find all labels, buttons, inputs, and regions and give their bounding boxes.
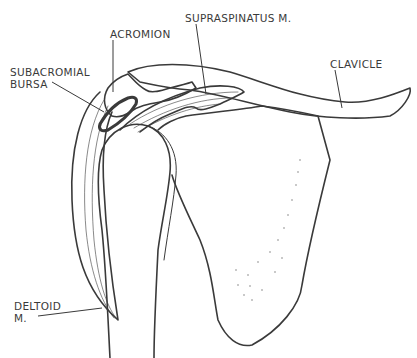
humerus-head-outline	[148, 126, 176, 260]
label-clavicle: CLAVICLE	[330, 58, 382, 70]
label-subacromial: SUBACROMIAL	[10, 66, 90, 78]
humerus	[98, 124, 170, 358]
deltoid-muscle	[72, 92, 118, 320]
label-supraspinatus: SUPRASPINATUS M.	[185, 12, 291, 24]
label-deltoid: DELTOID	[14, 300, 61, 312]
label-deltoid-m: M.	[14, 312, 27, 324]
clavicle-leader	[335, 70, 342, 108]
label-bursa: BURSA	[10, 78, 48, 90]
scapula-stippling	[235, 159, 300, 300]
acromion	[105, 74, 196, 117]
supraspinatus-leader	[196, 24, 206, 94]
label-acromion: ACROMION	[110, 28, 171, 40]
scapula	[158, 106, 330, 346]
shoulder-diagram	[0, 0, 417, 358]
